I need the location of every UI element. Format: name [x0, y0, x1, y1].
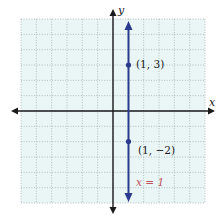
point-1-neg2: [126, 139, 131, 144]
x-axis-left-arrow-icon: [11, 108, 18, 115]
coordinate-plane: x y (1, 3) (1, −2) x = 1: [0, 0, 224, 221]
point-1-3: [126, 62, 131, 67]
point-1-neg2-label: (1, −2): [138, 144, 175, 156]
equation-label: x = 1: [136, 176, 164, 188]
x-axis-label: x: [209, 96, 216, 109]
y-axis-up-arrow-icon: [110, 9, 117, 16]
y-axis-label: y: [117, 4, 125, 17]
y-axis-down-arrow-icon: [110, 207, 117, 214]
point-1-3-label: (1, 3): [136, 58, 164, 70]
